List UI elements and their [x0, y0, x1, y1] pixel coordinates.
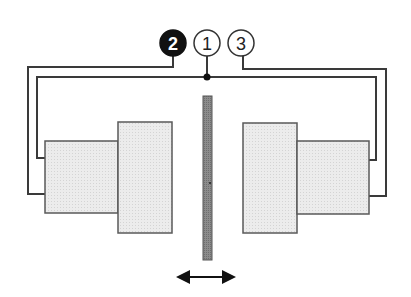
- electrode-diagram: 2 1 3: [0, 0, 411, 297]
- right-outer-block: [297, 141, 369, 214]
- plate-mark: [209, 182, 211, 184]
- terminal-label-3: 3: [228, 30, 254, 56]
- bidirectional-arrow-icon: [176, 270, 236, 284]
- terminal-label-3-text: 3: [236, 34, 246, 54]
- terminal-label-2: 2: [160, 30, 186, 56]
- terminal-label-1: 1: [194, 30, 220, 56]
- junction-dot: [204, 74, 211, 81]
- left-inner-block: [118, 122, 172, 233]
- right-inner-block: [243, 123, 297, 233]
- terminal-label-1-text: 1: [202, 34, 212, 54]
- center-plate: [203, 96, 212, 260]
- terminal-label-2-text: 2: [168, 34, 178, 54]
- left-outer-block: [45, 141, 118, 213]
